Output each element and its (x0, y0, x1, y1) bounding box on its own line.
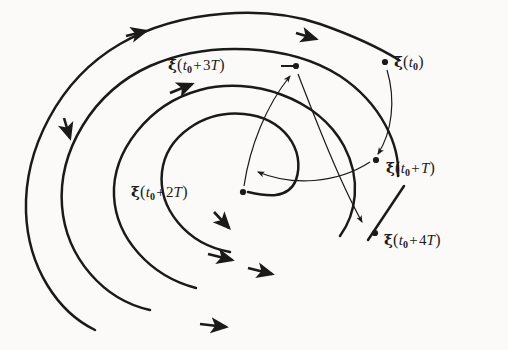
spiral-turn-second (62, 49, 398, 310)
point-dot-xi-t0-2T (240, 189, 246, 195)
spiral-turn-inner (162, 114, 299, 252)
spiral-turn-outer (26, 13, 399, 330)
arrowhead-outer-bottom (200, 324, 226, 327)
spiral-trajectory (26, 13, 404, 330)
arrowhead-second-bottom (248, 268, 272, 274)
figure-canvas: ξ(t0) ξ(t0+T) ξ(t0+2T) ξ(t0+3T) ξ(t0+4T) (0, 0, 508, 350)
spiral-turn-third (114, 86, 355, 288)
spiral-direction-arrowheads (64, 31, 316, 327)
point-dot-xi-t0-4T (372, 230, 378, 236)
point-dot-xi-t0-T (373, 157, 379, 163)
arrowhead-outer-right (296, 33, 316, 39)
point-dot-xi-t0 (382, 59, 388, 65)
map-arrow-p0-to-p1 (378, 70, 392, 154)
arrowhead-third-bottom (208, 254, 232, 260)
spiral-diagram-svg (0, 0, 508, 350)
arrowhead-second-left (64, 118, 70, 138)
stroboscopic-map-arrows (244, 70, 392, 222)
arrowhead-inner-bottom (214, 212, 229, 228)
point-dot-xi-t0-3T (293, 63, 299, 69)
sample-point-dots (240, 59, 388, 236)
arrowhead-third-top (170, 84, 192, 93)
map-arrow-p3-to-p4 (298, 74, 362, 222)
